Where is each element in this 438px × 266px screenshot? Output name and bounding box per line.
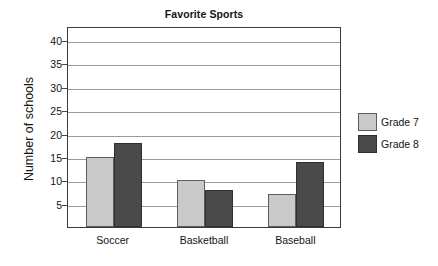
legend-swatch-icon-grade-8: [358, 135, 377, 153]
bar-basketball-grade-7: [177, 180, 205, 227]
y-axis-tick-labels: 510152025303540: [30, 27, 62, 228]
gridline-30: [68, 89, 340, 90]
x-tick-label-soccer: Soccer: [96, 234, 129, 246]
bar-baseball-grade-7: [268, 194, 296, 227]
bar-soccer-grade-7: [86, 157, 114, 227]
y-tick-label-15: 15: [32, 152, 62, 164]
x-tick-label-baseball: Baseball: [275, 234, 315, 246]
legend-label: Grade 7: [381, 116, 419, 128]
y-tick-label-30: 30: [32, 82, 62, 94]
bar-soccer-grade-8: [114, 143, 142, 227]
x-tick-label-basketball: Basketball: [180, 234, 228, 246]
gridline-25: [68, 112, 340, 113]
bar-chart-figure: Favorite Sports Number of schools 510152…: [0, 0, 438, 266]
legend-item-grade-7: Grade 7: [358, 111, 436, 132]
y-tick-label-25: 25: [32, 105, 62, 117]
y-tick-label-35: 35: [32, 58, 62, 70]
y-tick-label-40: 40: [32, 35, 62, 47]
bar-baseball-grade-8: [296, 162, 324, 227]
legend-label: Grade 8: [381, 138, 419, 150]
legend: Grade 7Grade 8: [358, 111, 436, 155]
y-tick-label-5: 5: [32, 199, 62, 211]
legend-swatch-icon-grade-7: [358, 113, 377, 131]
chart-title: Favorite Sports: [67, 8, 341, 20]
bar-basketball-grade-8: [205, 190, 233, 227]
legend-item-grade-8: Grade 8: [358, 133, 436, 154]
plot-area: [67, 27, 341, 228]
y-tick-label-10: 10: [32, 175, 62, 187]
gridline-20: [68, 136, 340, 137]
gridline-35: [68, 65, 340, 66]
y-tick-label-20: 20: [32, 129, 62, 141]
gridline-40: [68, 42, 340, 43]
